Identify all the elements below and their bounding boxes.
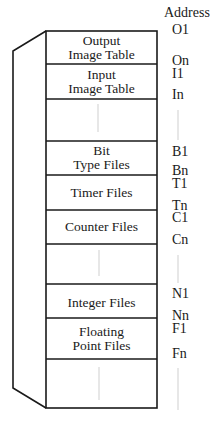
section-bit-type-files: Bit Type Files <box>46 141 157 175</box>
section-blank-3 <box>46 359 157 408</box>
address-start: I1 <box>172 67 184 81</box>
address-start: C1 <box>172 211 188 225</box>
section-blank-1 <box>46 99 157 141</box>
section-label-line: Floating <box>79 325 124 339</box>
section-label-line: Input <box>87 68 116 82</box>
section-label-line: Image Table <box>68 82 135 96</box>
address-end: Fn <box>172 347 187 361</box>
section-label-line: Timer Files <box>70 186 132 200</box>
address-start: B1 <box>172 145 188 159</box>
section-timer-files: Timer Files <box>46 175 157 210</box>
address-end: Cn <box>172 233 188 247</box>
section-label-line: Integer Files <box>68 296 136 310</box>
section-output-image-table: Output Image Table <box>46 31 157 64</box>
section-input-image-table: Input Image Table <box>46 64 157 99</box>
address-start: F1 <box>172 322 187 336</box>
address-start: O1 <box>172 23 189 37</box>
address-end: In <box>172 88 184 102</box>
section-label-line: Bit <box>93 144 110 158</box>
section-label-line: Counter Files <box>65 220 138 234</box>
section-label-line: Image Table <box>68 48 135 62</box>
section-label-line: Type Files <box>73 158 129 172</box>
section-integer-files: Integer Files <box>46 284 157 318</box>
section-blank-2 <box>46 244 157 284</box>
section-label-line: Output <box>83 34 121 48</box>
section-floating-point-files: Floating Point Files <box>46 318 157 359</box>
section-label-line: Point Files <box>72 339 130 353</box>
address-start: T1 <box>172 177 188 191</box>
address-header: Address <box>164 6 210 20</box>
address-start: N1 <box>172 287 189 301</box>
section-counter-files: Counter Files <box>46 210 157 244</box>
